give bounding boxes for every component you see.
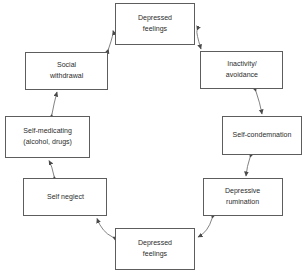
node-social-withdrawal: Social withdrawal: [25, 52, 108, 90]
node-self-medicating: Self-medicating (alcohol, drugs): [5, 116, 90, 158]
node-label: Depressed feelings: [136, 238, 174, 259]
node-label: Depressed feelings: [136, 13, 174, 34]
node-depressive-rumination: Depressive rumination: [203, 178, 283, 216]
arrow-social-to-top: [109, 31, 114, 50]
arrow-inactivity-to-selfcondemn: [256, 92, 262, 115]
arrow-bottom-to-selfneglect: [97, 219, 113, 238]
node-label: Depressive rumination: [223, 186, 262, 207]
arrow-selfneglect-to-selfmedicating: [49, 161, 54, 177]
node-label: Social withdrawal: [48, 60, 85, 81]
node-self-condemnation: Self-condemnation: [222, 116, 302, 155]
node-depressed-feelings-top: Depressed feelings: [115, 3, 195, 45]
arrow-selfcondemn-to-rumination: [246, 158, 250, 177]
node-label: Self-condemnation: [231, 130, 294, 141]
arrow-selfmedicating-to-social: [52, 92, 57, 114]
node-label: Self neglect: [45, 192, 86, 203]
node-depressed-feelings-bottom: Depressed feelings: [115, 228, 195, 270]
node-label: Inactivity/ avoidance: [224, 59, 260, 80]
arrow-top-to-inactivity: [197, 31, 201, 50]
arrow-rumination-to-bottom: [198, 219, 212, 238]
node-label: Self-medicating (alcohol, drugs): [21, 126, 74, 147]
node-self-neglect: Self neglect: [23, 178, 107, 216]
node-inactivity-avoidance: Inactivity/ avoidance: [200, 51, 283, 89]
depression-cycle-diagram: top depressed feelings --> inactivity/av…: [0, 0, 307, 273]
